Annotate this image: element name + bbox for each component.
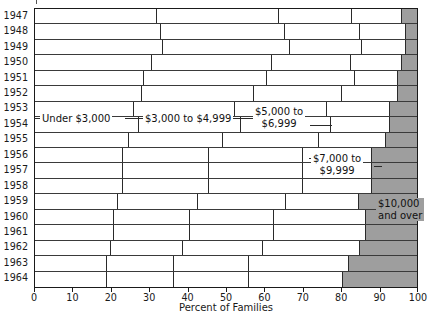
bar-segment: [351, 55, 402, 69]
bar-segment: [372, 179, 417, 193]
bar-segment: [152, 55, 272, 69]
bar-segment: [349, 256, 417, 270]
year-label-1947: 1947: [4, 11, 28, 21]
bar-segment: [362, 40, 406, 54]
bar-segment: [129, 133, 223, 147]
bar-segment: [406, 40, 417, 54]
bar-segment: [144, 71, 267, 85]
bar-segment: [118, 194, 198, 208]
bar-row: [35, 272, 417, 287]
bar-segment: [35, 225, 114, 239]
bar-segment: [198, 194, 286, 208]
bar-segment: [285, 24, 360, 38]
year-label-1950: 1950: [4, 57, 28, 67]
year-label-1959: 1959: [4, 196, 28, 206]
bar-segment: [290, 40, 362, 54]
bar-segment: [174, 272, 250, 287]
bar-segment: [327, 102, 390, 116]
bar-row: [35, 9, 417, 24]
bar-segment: [319, 133, 386, 147]
bar-segment: [35, 9, 157, 23]
bar-row: [35, 133, 417, 148]
bar-segment: [402, 9, 417, 23]
bar-segment: [35, 256, 107, 270]
bar-segment: [372, 148, 417, 162]
bar-segment: [35, 210, 114, 224]
annotation-5000-6999-line1: $5,000 to: [255, 106, 303, 117]
bar-segment: [35, 241, 111, 255]
bar-segment: [267, 71, 355, 85]
year-label-1962: 1962: [4, 242, 28, 252]
bar-segment: [35, 163, 123, 177]
bar-segment: [35, 86, 142, 100]
bar-segment: [366, 225, 417, 239]
annotation-10000-line1: $10,000: [378, 198, 419, 209]
bar-segment: [279, 9, 352, 23]
bar-segment: [223, 133, 319, 147]
year-label-1958: 1958: [4, 181, 28, 191]
year-label-1961: 1961: [4, 227, 28, 237]
bar-row: [35, 71, 417, 86]
annotation-7000-9999-line2: $9,999: [320, 165, 355, 176]
bar-segment: [209, 163, 303, 177]
bar-segment: [274, 210, 366, 224]
bar-segment: [35, 179, 123, 193]
year-label-1963: 1963: [4, 258, 28, 268]
bar-segment: [183, 241, 263, 255]
x-axis-title: Percent of Families: [34, 303, 418, 313]
bar-segment: [355, 71, 398, 85]
year-label-1957: 1957: [4, 165, 28, 175]
x-tick-label-90: 90: [373, 293, 385, 303]
bar-segment: [35, 24, 161, 38]
annotation-leader-5000-left: [240, 118, 254, 119]
bar-segment: [163, 40, 290, 54]
bar-segment: [398, 86, 417, 100]
bar-segment: [35, 148, 123, 162]
x-tick-label-20: 20: [105, 293, 117, 303]
bar-segment: [406, 24, 417, 38]
x-tick-label-10: 10: [66, 293, 78, 303]
bar-segment: [190, 225, 274, 239]
bar-segment: [249, 256, 348, 270]
annotation-5000-6999-line2: $6,999: [262, 118, 297, 129]
annotation-under-3000: Under $3,000: [40, 113, 112, 125]
bar-segment: [114, 225, 190, 239]
bar-segment: [249, 272, 342, 287]
year-label-1960: 1960: [4, 212, 28, 222]
bar-segment: [402, 55, 417, 69]
plot-area: [34, 8, 418, 288]
year-label-1956: 1956: [4, 150, 28, 160]
bar-segment: [107, 256, 174, 270]
year-label-1954: 1954: [4, 119, 28, 129]
bar-segment: [286, 194, 359, 208]
bar-segment: [352, 9, 402, 23]
bar-segment: [35, 40, 163, 54]
bar-segment: [360, 24, 406, 38]
bar-segment: [190, 210, 274, 224]
bar-segment: [35, 272, 107, 287]
x-tick-label-100: 100: [409, 293, 427, 303]
bar-segment: [209, 179, 303, 193]
bar-segment: [272, 55, 351, 69]
year-label-1948: 1948: [4, 26, 28, 36]
bar-row: [35, 210, 417, 225]
bar-segment: [111, 241, 184, 255]
annotation-7000-9999-line1: $7,000 to: [313, 153, 361, 164]
bar-segment: [142, 86, 254, 100]
bar-row: [35, 86, 417, 101]
annotation-leader-7000-right: [374, 166, 382, 167]
x-tick-label-70: 70: [297, 293, 309, 303]
bar-segment: [161, 24, 285, 38]
bar-segment: [263, 241, 360, 255]
bar-segment: [209, 148, 303, 162]
year-label-1949: 1949: [4, 42, 28, 52]
bar-segment: [174, 256, 250, 270]
annotation-10000-line2: and over: [378, 210, 422, 221]
bar-segment: [360, 241, 417, 255]
bar-row: [35, 40, 417, 55]
x-tick-label-0: 0: [31, 293, 37, 303]
bar-row: [35, 256, 417, 271]
bar-segment: [390, 102, 417, 116]
bar-segment: [386, 133, 417, 147]
annotation-10000-and-over: $10,000and over: [376, 198, 424, 221]
